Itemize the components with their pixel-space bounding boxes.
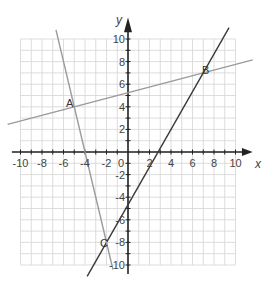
y-tick-label: -8 — [115, 236, 125, 248]
y-tick-label: 10 — [113, 33, 125, 45]
y-tick-label: 2 — [119, 123, 125, 135]
y-axis-arrow-icon — [124, 18, 132, 33]
y-tick-label: -6 — [115, 214, 125, 226]
y-tick-label: 6 — [119, 78, 125, 90]
x-tick-label: -6 — [59, 157, 69, 169]
x-tick-label: 8 — [211, 157, 217, 169]
series-line-0 — [8, 60, 253, 124]
point-a-label: A — [66, 97, 74, 109]
series-line-2 — [56, 30, 113, 270]
y-tick-label: -10 — [109, 259, 125, 271]
point-b-label: B — [202, 64, 209, 76]
x-tick-label: 0 — [118, 157, 124, 169]
axes — [12, 18, 253, 275]
y-axis-label: y — [115, 13, 123, 27]
x-axis-label: x — [254, 157, 262, 171]
x-tick-label: -8 — [37, 157, 47, 169]
y-tick-label: 8 — [119, 56, 125, 68]
x-tick-label: 6 — [189, 157, 195, 169]
x-tick-label: -4 — [80, 157, 90, 169]
y-tick-label: -4 — [115, 191, 125, 203]
x-tick-label: 10 — [229, 157, 241, 169]
x-tick-label: -2 — [102, 157, 112, 169]
x-tick-label: -10 — [13, 157, 29, 169]
coordinate-plane: -10-8-6-4-20246810108642-2-4-6-8-10 x y … — [0, 0, 279, 287]
x-axis-arrow-icon — [242, 148, 253, 156]
y-tick-label: 4 — [119, 101, 125, 113]
x-tick-label: 2 — [146, 157, 152, 169]
point-c-label: C — [100, 237, 108, 249]
x-tick-label: 4 — [168, 157, 174, 169]
y-tick-label: -2 — [115, 169, 125, 181]
